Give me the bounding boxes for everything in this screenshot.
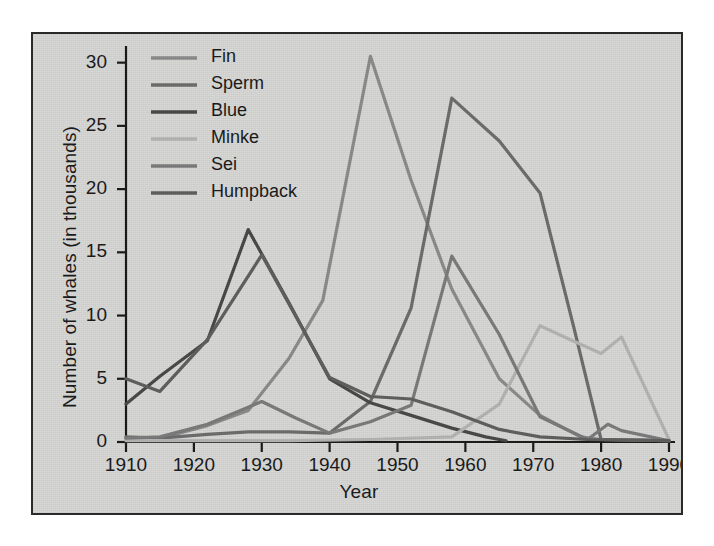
axis-lines [117, 46, 675, 452]
legend-label-sei: Sei [211, 154, 237, 175]
x-axis-title: Year [33, 481, 683, 503]
y-tick-label: 15 [41, 240, 107, 262]
x-tick-label: 1970 [501, 454, 565, 476]
x-tick-label: 1980 [569, 454, 633, 476]
chart-figure: Number of whales (in thousands) Year 051… [31, 32, 683, 515]
y-tick-label: 20 [41, 177, 107, 199]
x-tick-label: 1990 [637, 454, 683, 476]
y-tick-label: 5 [41, 367, 107, 389]
x-tick-label: 1920 [162, 454, 226, 476]
x-tick-label: 1940 [298, 454, 362, 476]
y-tick-label: 30 [41, 51, 107, 73]
plot-canvas [33, 34, 683, 515]
legend-label-blue: Blue [211, 100, 247, 121]
x-tick-label: 1910 [94, 454, 158, 476]
legend-label-humpback: Humpback [211, 181, 297, 202]
series-line-sperm [126, 98, 669, 441]
y-tick-label: 0 [41, 430, 107, 452]
series-lines [126, 56, 669, 440]
legend-swatches [151, 58, 197, 193]
x-tick-label: 1960 [433, 454, 497, 476]
x-tick-label: 1930 [230, 454, 294, 476]
y-tick-label: 10 [41, 304, 107, 326]
x-tick-label: 1950 [366, 454, 430, 476]
legend-label-sperm: Sperm [211, 73, 264, 94]
legend-label-minke: Minke [211, 127, 259, 148]
y-tick-label: 25 [41, 114, 107, 136]
legend-label-fin: Fin [211, 46, 236, 67]
